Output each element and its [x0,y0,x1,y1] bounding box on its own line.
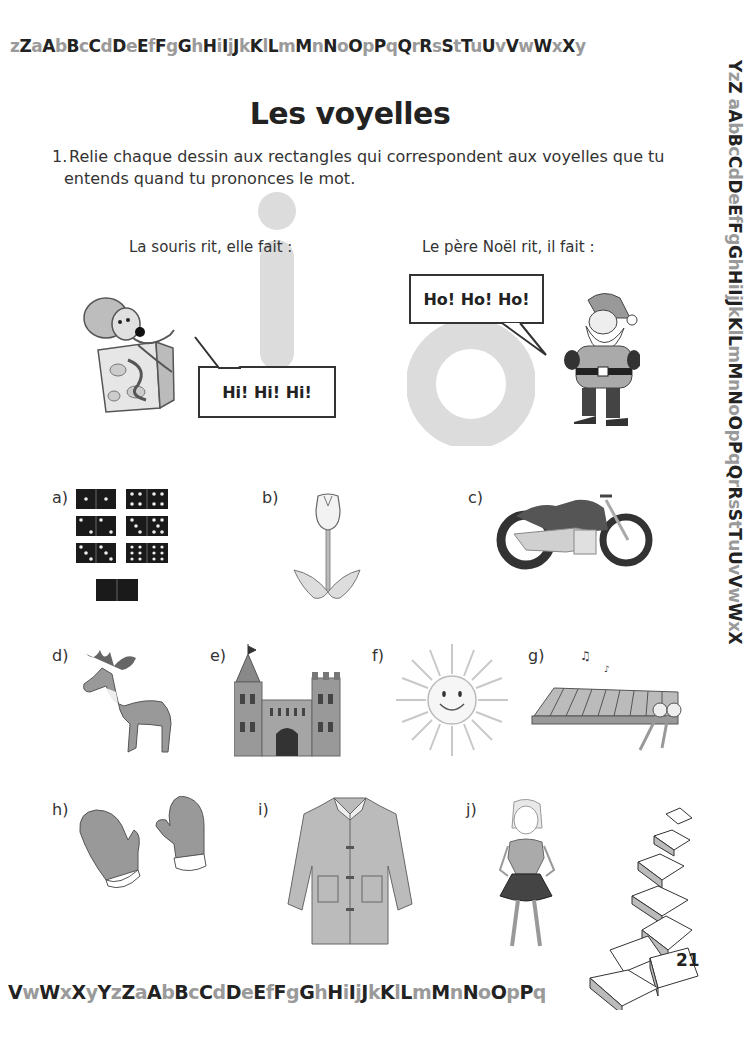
flying-books-decoration [588,800,718,1010]
page-number: 21 [676,950,700,970]
item-label-f: f) [372,646,384,665]
alphabet-letter: b [725,122,745,134]
mittens-illustration [76,796,208,888]
alphabet-letter: w [725,587,745,602]
alphabet-letter: T [725,528,745,539]
moose-illustration [76,644,180,756]
alphabet-letter: E [725,204,745,215]
alphabet-letter: o [337,36,348,56]
alphabet-letter: e [241,981,253,1003]
alphabet-letter: b [55,36,67,56]
alphabet-letter: n [450,981,463,1003]
dominoes-illustration [76,489,172,603]
alphabet-letter: d [101,36,113,56]
speech-bubble-tail-mouse [193,335,243,369]
alphabet-letter: X [562,36,575,56]
alphabet-letter: k [239,36,250,56]
alphabet-letter: k [368,981,380,1003]
caption-mouse: La souris rit, elle fait : [129,238,292,256]
alphabet-letter: H [725,270,745,284]
alphabet-letter: T [461,36,470,56]
alphabet-letter: Z [121,981,134,1003]
mouse-on-cheese-illustration [78,290,193,415]
alphabet-letter: c [79,36,89,56]
page-title: Les voyelles [0,96,700,131]
vowel-i-shape [256,192,298,372]
alphabet-letter: v [725,564,745,575]
alphabet-letter: F [274,981,286,1003]
item-label-i: i) [258,800,269,819]
alphabet-letter: C [89,36,101,56]
exercise-number: 1. [52,146,64,168]
alphabet-strip-top: zZaAbBcCdDeEfFgGhHiIjJkKlLmMnNoOpPqQrRsS… [10,36,586,56]
alphabet-letter: X [72,981,86,1003]
svg-text:♫: ♫ [580,649,591,663]
alphabet-letter: A [725,109,745,122]
castle-illustration [234,642,342,758]
alphabet-letter: x [725,621,745,631]
alphabet-letter: K [380,981,394,1003]
alphabet-letter: Y [98,981,111,1003]
alphabet-letter: L [268,36,278,56]
alphabet-letter: A [147,981,161,1003]
alphabet-letter: o [725,404,745,415]
alphabet-letter: M [295,36,311,56]
alphabet-letter: C [199,981,212,1003]
alphabet-letter: V [725,575,745,588]
alphabet-letter: K [250,36,263,56]
alphabet-letter: m [278,36,295,56]
alphabet-letter: p [506,981,519,1003]
svg-text:♪: ♪ [604,664,610,674]
tulip-illustration [292,492,364,602]
alphabet-letter: u [725,539,745,551]
alphabet-letter: e [126,36,137,56]
alphabet-letter: a [725,98,745,109]
xylophone-illustration: ♫ ♪ [528,644,690,756]
alphabet-letter: W [534,36,552,56]
alphabet-letter: d [725,168,745,180]
alphabet-letter: a [135,981,147,1003]
alphabet-letter: n [312,36,324,56]
alphabet-letter: E [137,36,148,56]
alphabet-letter: B [174,981,188,1003]
motorcycle-illustration [496,494,654,570]
alphabet-letter: F [725,222,745,233]
alphabet-letter: D [112,36,126,56]
alphabet-letter: p [362,36,374,56]
alphabet-letter: e [725,193,745,204]
santa-claus-illustration [558,288,640,428]
alphabet-letter: P [519,981,532,1003]
alphabet-letter: t [453,36,461,56]
alphabet-letter: z [111,981,122,1003]
alphabet-letter: M [431,981,449,1003]
sun-illustration [396,644,508,756]
alphabet-letter: Q [397,36,411,56]
item-label-d: d) [52,646,68,665]
alphabet-letter: g [725,233,745,245]
alphabet-letter: f [266,981,274,1003]
alphabet-letter: s [432,36,442,56]
alphabet-letter: n [725,379,745,391]
alphabet-letter: D [725,180,745,194]
alphabet-letter: K [725,317,745,330]
alphabet-letter: V [506,36,519,56]
alphabet-letter: V [8,981,22,1003]
alphabet-letter: S [725,509,745,521]
alphabet-letter: A [42,36,55,56]
alphabet-letter: L [400,981,412,1003]
alphabet-letter: q [533,981,546,1003]
alphabet-letter: r [725,479,745,487]
alphabet-letter: O [348,36,362,56]
item-label-h: h) [52,800,68,819]
alphabet-letter: z [10,36,19,56]
alphabet-letter: G [178,36,191,56]
alphabet-letter: S [442,36,454,56]
alphabet-letter: H [203,36,217,56]
alphabet-letter: B [67,36,79,56]
caption-santa: Le père Noël rit, il fait : [422,238,594,256]
item-label-e: e) [210,646,226,665]
alphabet-letter: N [725,391,745,405]
instruction-line-2: entends quand tu prononces le mot. [52,168,672,190]
item-label-c: c) [468,488,483,507]
speech-bubble-santa: Ho! Ho! Ho! [409,274,544,324]
